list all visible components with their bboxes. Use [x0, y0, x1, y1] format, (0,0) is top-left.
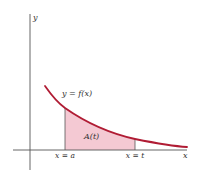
- area-under-curve-diagram: y x y = f(x) A(t) x = a x = t: [0, 0, 198, 177]
- y-axis-label: y: [32, 13, 38, 22]
- left-bound-label: x = a: [55, 151, 75, 160]
- area-label: A(t): [83, 132, 99, 141]
- x-axis-label: x: [183, 151, 188, 160]
- curve-label: y = f(x): [61, 89, 92, 98]
- right-bound-label: x = t: [126, 151, 145, 160]
